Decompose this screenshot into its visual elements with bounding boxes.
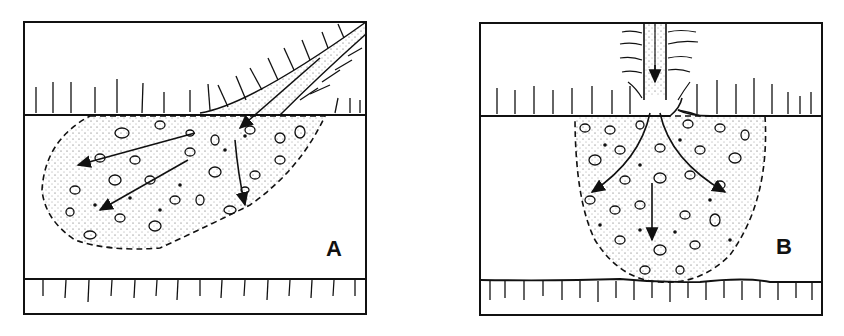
- diagram-canvas: [0, 0, 844, 336]
- panel-a: [24, 22, 366, 314]
- panel-b: [480, 23, 822, 315]
- panel-label-b: B: [776, 234, 792, 260]
- panel-label-a: A: [326, 236, 342, 262]
